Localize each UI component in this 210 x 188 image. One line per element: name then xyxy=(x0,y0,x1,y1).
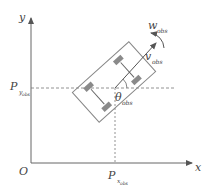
py-obs-label: P xyxy=(9,80,18,93)
front-axle xyxy=(113,55,142,85)
theta-obs-subscript: obs xyxy=(122,99,133,106)
px-obs-label: P xyxy=(107,169,116,182)
kinematics-diagram: y x O P y obs P x obs θ obs v obs w obs xyxy=(0,0,210,188)
heading-angle-arc xyxy=(123,79,127,88)
v-obs-label: v xyxy=(145,50,152,63)
theta-obs-label: θ xyxy=(115,91,122,104)
projection-lines xyxy=(31,88,175,163)
axes xyxy=(31,18,192,163)
v-obs-subscript: obs xyxy=(152,58,163,65)
origin-label: O xyxy=(19,165,28,178)
rear-axle xyxy=(83,81,112,111)
px-obs-subsubscript: obs xyxy=(120,181,129,186)
x-axis-label: x xyxy=(195,161,202,174)
vehicle xyxy=(72,42,155,123)
y-axis-label: y xyxy=(18,11,26,24)
labels: y x O P y obs P x obs θ obs v obs w obs xyxy=(9,11,202,186)
py-obs-subsubscript: obs xyxy=(22,92,31,97)
vehicle-body-outline xyxy=(72,42,155,123)
w-obs-subscript: obs xyxy=(157,27,168,34)
